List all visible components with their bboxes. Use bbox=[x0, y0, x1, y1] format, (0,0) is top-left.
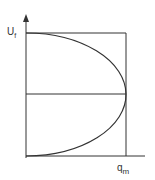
x-label-sub: m bbox=[123, 167, 130, 176]
y-label-sub: f bbox=[14, 32, 16, 39]
x-axis-label: qm bbox=[117, 163, 129, 176]
diagram-canvas bbox=[0, 0, 155, 180]
y-axis-label: Uf bbox=[7, 27, 16, 39]
y-axis-arrow-icon bbox=[23, 14, 29, 22]
